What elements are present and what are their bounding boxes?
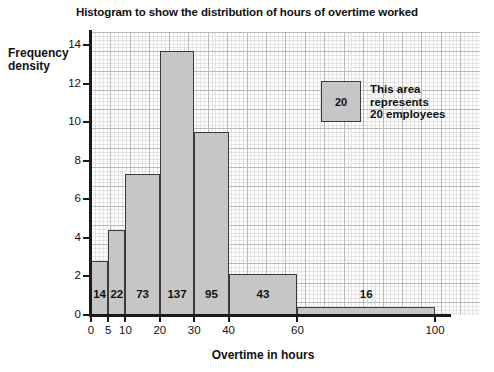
x-axis-tick <box>193 314 195 322</box>
bar-frequency-label: 95 <box>194 288 228 300</box>
x-axis-tick-label: 60 <box>282 324 312 336</box>
y-axis-tick <box>83 198 91 200</box>
histogram-chart: Histogram to show the distribution of ho… <box>0 0 494 372</box>
legend-description: This area represents 20 employees <box>370 83 445 121</box>
bar-frequency-label: 14 <box>91 288 108 300</box>
y-axis-tick-label: 6 <box>55 192 81 204</box>
y-axis-tick <box>83 83 91 85</box>
x-axis-tick-label: 30 <box>179 324 209 336</box>
x-axis-tick <box>228 314 230 322</box>
y-axis-tick-label: 8 <box>55 154 81 166</box>
y-axis-tick-label: 2 <box>55 269 81 281</box>
x-axis-tick <box>434 314 436 322</box>
histogram-bar <box>160 51 194 315</box>
x-axis-tick <box>296 314 298 322</box>
x-axis-tick-label: 10 <box>110 324 140 336</box>
x-axis-tick <box>159 314 161 322</box>
x-axis-tick <box>90 314 92 322</box>
x-axis-tick-label: 100 <box>420 324 450 336</box>
y-axis-tick-label: 0 <box>55 308 81 320</box>
x-axis-tick-label: 40 <box>214 324 244 336</box>
y-axis-tick <box>83 121 91 123</box>
legend: 20 This area represents 20 employees <box>321 81 445 122</box>
y-axis-tick-label: 10 <box>55 115 81 127</box>
x-axis-tick <box>124 314 126 322</box>
y-axis-title: Frequency density <box>8 47 80 73</box>
bar-frequency-label: 137 <box>160 288 194 300</box>
bar-frequency-label: 16 <box>297 288 435 300</box>
y-axis-line <box>89 30 92 317</box>
bar-frequency-label: 22 <box>108 288 125 300</box>
histogram-bar <box>108 230 125 315</box>
y-axis-tick-label: 12 <box>55 77 81 89</box>
y-axis-tick <box>83 160 91 162</box>
y-axis-tick <box>83 44 91 46</box>
y-axis-tick <box>83 275 91 277</box>
x-axis-title: Overtime in hours <box>91 348 435 362</box>
chart-title: Histogram to show the distribution of ho… <box>0 6 494 18</box>
legend-swatch: 20 <box>321 81 361 122</box>
y-axis-tick <box>83 237 91 239</box>
plot-area <box>91 32 480 315</box>
bar-frequency-label: 43 <box>229 288 298 300</box>
x-axis-tick-label: 20 <box>145 324 175 336</box>
x-axis-tick <box>107 314 109 322</box>
x-axis-line <box>89 314 451 317</box>
y-axis-tick-label: 4 <box>55 231 81 243</box>
y-axis-tick-label: 14 <box>55 38 81 50</box>
bar-frequency-label: 73 <box>125 288 159 300</box>
